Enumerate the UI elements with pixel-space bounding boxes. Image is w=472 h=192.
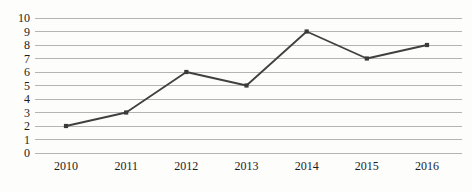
y-axis-tick-label: 7: [4, 53, 30, 65]
x-axis-tick-label: 2015: [355, 160, 379, 172]
y-axis-tick-label: 6: [4, 66, 30, 78]
chart-container: 012345678910 201020112012201320142015201…: [0, 0, 472, 192]
y-axis-tick-label: 1: [4, 134, 30, 146]
data-point-marker: [244, 83, 248, 87]
y-axis-tick-label: 4: [4, 93, 30, 105]
data-point-marker: [124, 110, 128, 114]
y-axis-tick-label: 8: [4, 39, 30, 51]
y-axis-labels: 012345678910: [0, 18, 30, 153]
data-point-marker: [425, 43, 429, 47]
data-point-marker: [64, 124, 68, 128]
y-axis-tick-label: 0: [4, 147, 30, 159]
y-axis-tick-label: 3: [4, 107, 30, 119]
data-point-marker: [365, 56, 369, 60]
y-axis-tick-label: 9: [4, 26, 30, 38]
y-axis-tick-label: 2: [4, 120, 30, 132]
x-axis-tick-label: 2010: [54, 160, 78, 172]
x-axis-tick-label: 2012: [174, 160, 198, 172]
data-point-marker: [305, 29, 309, 33]
x-axis-labels: 2010201120122013201420152016: [35, 160, 462, 180]
plot-area: [35, 18, 462, 153]
y-axis-tick-label: 10: [4, 12, 30, 24]
x-axis-tick-label: 2016: [415, 160, 439, 172]
x-axis-tick-label: 2011: [114, 160, 138, 172]
data-point-marker: [184, 70, 188, 74]
x-axis-tick-label: 2014: [295, 160, 319, 172]
x-axis-tick-label: 2013: [235, 160, 259, 172]
series-line: [66, 32, 427, 127]
y-axis-tick-label: 5: [4, 80, 30, 92]
line-series: [35, 18, 462, 153]
